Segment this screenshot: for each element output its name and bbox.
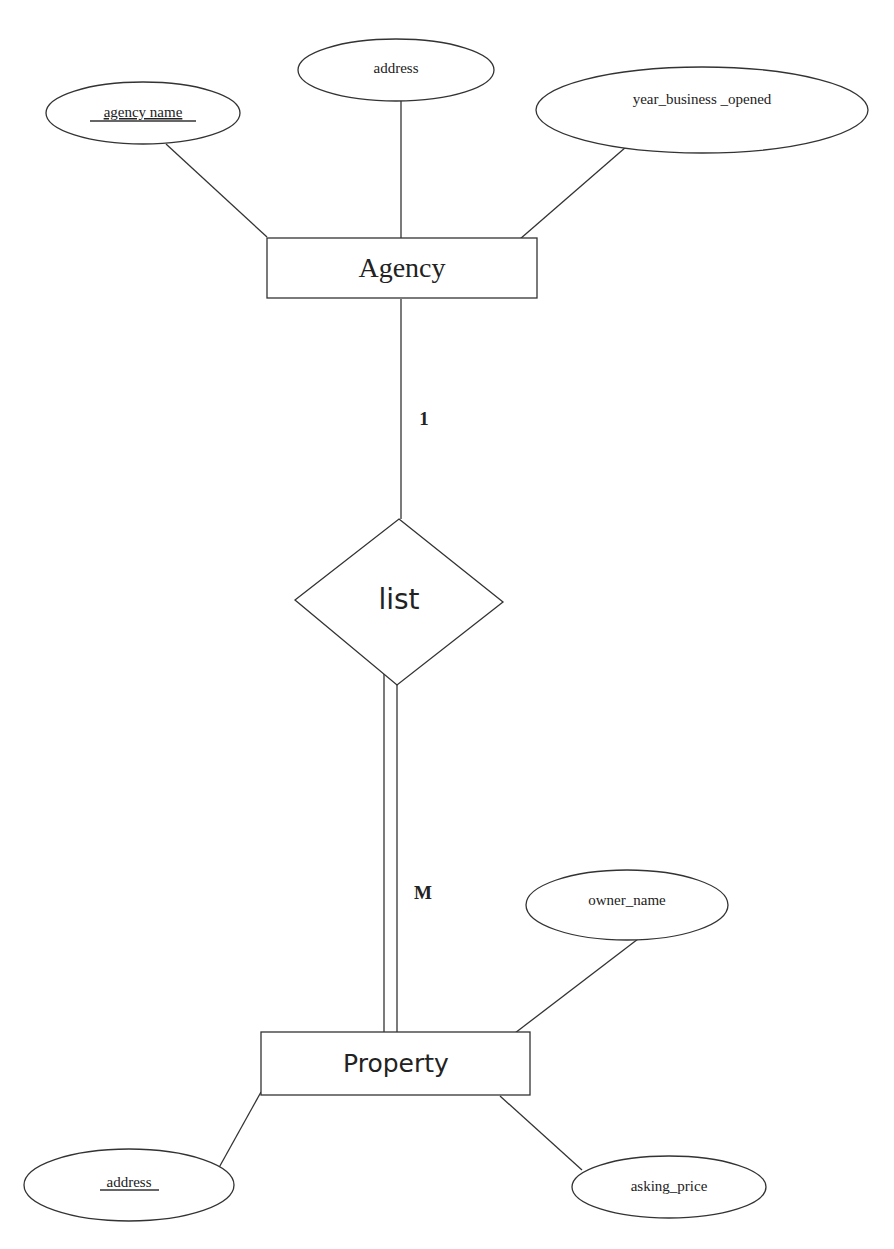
connector-property-address — [216, 1092, 261, 1173]
relationship-label: list — [378, 583, 419, 616]
cardinality-one: 1 — [419, 408, 429, 429]
attribute-property-address: address — [24, 1149, 234, 1221]
connector-agency-name — [166, 144, 267, 237]
attribute-label: owner_name — [588, 892, 666, 908]
entity-label: Property — [343, 1049, 449, 1078]
entity-property: Property — [261, 1032, 530, 1095]
attribute-agency-name: agency name — [46, 82, 240, 144]
relationship-list: list — [295, 519, 503, 685]
attribute-label: address — [107, 1174, 152, 1190]
connector-asking-price — [500, 1096, 582, 1170]
attribute-label: asking_price — [631, 1178, 708, 1194]
attribute-year-business-opened: year_business _opened — [536, 67, 868, 153]
connector-year-business-opened — [520, 147, 626, 239]
attribute-asking-price: asking_price — [572, 1156, 766, 1218]
attribute-label: year_business _opened — [633, 91, 772, 107]
attribute-label: address — [374, 60, 419, 76]
attribute-label: agency name — [104, 104, 183, 120]
entity-agency: Agency — [267, 238, 537, 298]
cardinality-many: M — [414, 882, 432, 903]
attribute-agency-address: address — [298, 39, 494, 101]
entity-label: Agency — [358, 252, 445, 283]
attribute-owner-name: owner_name — [526, 870, 728, 940]
attribute-ellipse — [536, 67, 868, 153]
connector-owner-name — [515, 939, 638, 1033]
er-diagram: agency name address year_business _opene… — [0, 0, 894, 1249]
